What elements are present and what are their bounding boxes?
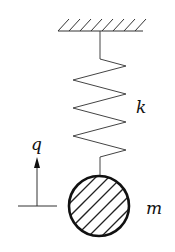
spring-constant-label: k	[136, 97, 146, 117]
arrowhead-icon	[34, 157, 40, 168]
spring-mass-diagram: k m q	[0, 0, 175, 252]
mass-label: m	[146, 198, 162, 218]
mass	[60, 160, 138, 242]
displacement-arrow	[18, 157, 57, 206]
spring	[73, 31, 126, 176]
fixed-support	[58, 19, 146, 31]
displacement-label: q	[31, 134, 42, 154]
